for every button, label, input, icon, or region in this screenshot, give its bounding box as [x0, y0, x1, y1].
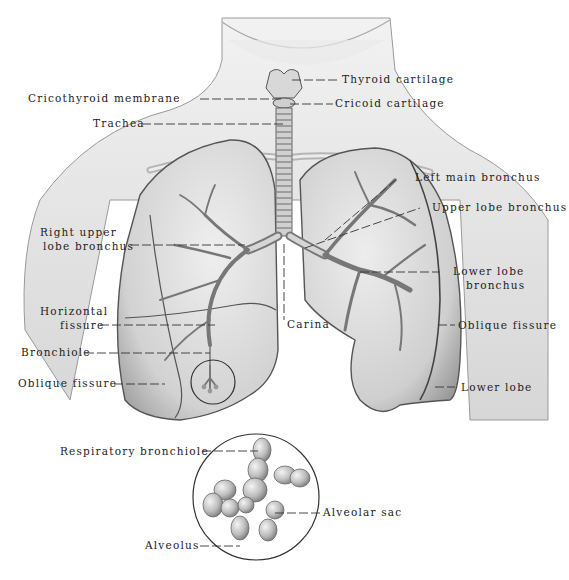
label-alveolar-sac: Alveolar sac [323, 506, 402, 519]
label-cricothyroid-membrane: Cricothyroid membrane [28, 92, 181, 105]
label-trachea: Trachea [93, 117, 145, 130]
trachea [276, 108, 292, 236]
label-carina: Carina [287, 318, 330, 331]
label-upper-lobe-bronchus: Upper lobe bronchus [432, 201, 567, 214]
label-right-upper-lobe-bronchus-line2: lobe bronchus [43, 240, 134, 253]
label-horizontal-fissure-line1: Horizontal [40, 305, 108, 318]
label-bronchiole: Bronchiole [21, 346, 91, 359]
alveoli-magnify-circle [193, 434, 319, 560]
label-left-main-bronchus: Left main bronchus [415, 171, 541, 184]
label-respiratory-bronchiole: Respiratory bronchiole [60, 445, 209, 458]
label-cricoid-cartilage: Cricoid cartilage [335, 97, 445, 110]
label-lower-lobe-bronchus-line2: bronchus [466, 279, 525, 292]
label-right-upper-lobe-bronchus-line1: Right upper [40, 226, 117, 239]
label-lower-lobe: Lower lobe [461, 381, 532, 394]
label-alveolus: Alveolus [145, 539, 200, 552]
label-oblique-fissure-right-lung: Oblique fissure [18, 377, 117, 390]
label-thyroid-cartilage: Thyroid cartilage [342, 73, 454, 86]
label-lower-lobe-bronchus-line1: Lower lobe [453, 265, 524, 278]
label-oblique-fissure-left-lung: Oblique fissure [458, 319, 557, 332]
label-horizontal-fissure-line2: fissure [60, 319, 104, 332]
lung-anatomy-diagram: Thyroid cartilage Cricothyroid membrane … [0, 0, 569, 580]
